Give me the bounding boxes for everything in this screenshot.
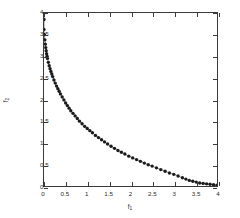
data-point <box>212 183 215 186</box>
y-tick <box>44 13 48 14</box>
chart-canvas <box>44 13 217 186</box>
data-point <box>208 183 211 186</box>
y-tick-right <box>213 79 217 80</box>
data-point <box>163 170 166 173</box>
data-point <box>88 129 91 132</box>
y-tick-right <box>213 166 217 167</box>
x-tick-top <box>132 13 133 17</box>
x-tick <box>44 182 45 186</box>
data-point <box>150 164 153 167</box>
plot-area <box>43 12 218 187</box>
y-tick <box>44 57 48 58</box>
x-tick-top <box>175 13 176 17</box>
x-tick-label: 1.5 <box>104 190 113 198</box>
data-point <box>201 182 204 185</box>
x-tick <box>132 182 133 186</box>
y-axis-title: f2 <box>2 98 10 102</box>
data-point <box>59 92 62 95</box>
data-point <box>51 75 54 78</box>
x-tick-top <box>88 13 89 17</box>
data-point <box>94 134 97 137</box>
data-point <box>135 158 138 161</box>
data-point <box>113 147 116 150</box>
data-point <box>176 174 179 177</box>
data-point <box>47 61 50 64</box>
data-point <box>116 149 119 152</box>
y-tick-right <box>213 57 217 58</box>
data-point <box>139 160 142 163</box>
y-tick-right <box>213 144 217 145</box>
data-point <box>191 180 194 183</box>
x-tick-label: 3 <box>173 190 176 198</box>
x-tick-label: 4 <box>216 190 219 198</box>
x-tick-label: 1 <box>85 190 88 198</box>
data-point <box>143 161 146 164</box>
x-tick-top <box>110 13 111 17</box>
data-point <box>215 183 217 186</box>
data-point <box>76 117 79 120</box>
y-tick <box>44 101 48 102</box>
y-tick-right <box>213 101 217 102</box>
data-point <box>44 42 47 45</box>
data-point <box>83 125 86 128</box>
data-point <box>181 176 184 179</box>
data-point <box>71 112 74 115</box>
data-point <box>44 38 47 41</box>
y-tick-right <box>213 35 217 36</box>
x-axis-title: f1 <box>128 203 132 211</box>
data-point <box>48 64 51 67</box>
data-point <box>86 127 89 130</box>
y-tick-right <box>213 122 217 123</box>
data-point <box>60 95 63 98</box>
data-point <box>205 182 208 185</box>
data-point <box>44 18 46 21</box>
y-tick-right <box>213 188 217 189</box>
data-point <box>172 173 175 176</box>
data-point <box>69 109 72 112</box>
data-point <box>100 138 103 141</box>
data-point <box>188 179 191 182</box>
figure-panel: 00.511.522.533.54 00.511.522.533.54 f1 f… <box>0 0 240 218</box>
series-line <box>44 13 217 185</box>
x-tick-label: 2 <box>129 190 132 198</box>
data-point <box>44 46 47 49</box>
data-point <box>159 168 162 171</box>
data-point <box>184 177 187 180</box>
data-point <box>52 78 55 81</box>
y-tick <box>44 144 48 145</box>
data-point <box>97 136 100 139</box>
y-axis-title-subscript: 2 <box>5 98 10 101</box>
data-point <box>103 140 106 143</box>
y-tick-right <box>213 13 217 14</box>
data-point <box>155 166 158 169</box>
data-point <box>44 49 47 52</box>
x-tick <box>175 182 176 186</box>
x-tick <box>88 182 89 186</box>
data-point <box>109 145 112 148</box>
data-point <box>127 154 130 157</box>
data-point <box>131 156 134 159</box>
x-tick-label: 0 <box>41 190 44 198</box>
y-tick <box>44 188 48 189</box>
x-axis-title-subscript: 1 <box>130 206 133 211</box>
data-point <box>168 171 171 174</box>
x-tick-top <box>219 13 220 17</box>
data-point <box>147 163 150 166</box>
x-tick-label: 2.5 <box>148 190 157 198</box>
data-point <box>106 142 109 145</box>
y-axis-title-base: f <box>2 100 9 102</box>
data-point <box>91 131 94 134</box>
x-tick-top <box>153 13 154 17</box>
x-tick-top <box>197 13 198 17</box>
x-tick <box>153 182 154 186</box>
data-point <box>123 152 126 155</box>
x-tick <box>110 182 111 186</box>
x-tick <box>219 182 220 186</box>
x-tick-label: 0.5 <box>61 190 70 198</box>
data-point <box>78 119 81 122</box>
data-point <box>54 81 57 84</box>
data-point <box>80 122 83 125</box>
x-tick <box>197 182 198 186</box>
x-tick-top <box>66 13 67 17</box>
data-point <box>120 151 123 154</box>
